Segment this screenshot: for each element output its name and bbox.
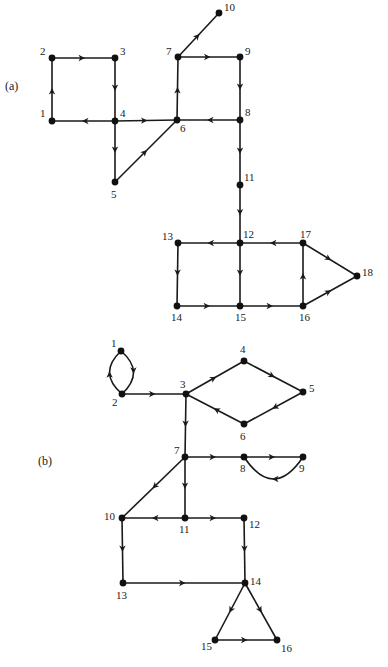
graph-a-label: (a) [5,79,18,93]
node-label: 12 [243,228,254,240]
graph-a: (a) 123456789101112131415161718 [5,1,374,323]
node-label: 6 [240,430,246,442]
node-b-15 [212,637,219,644]
node-label: 1 [111,337,117,349]
node-b-11 [182,515,189,522]
node-label: 11 [179,523,190,535]
node-a-17 [300,240,307,247]
node-a-5 [112,179,119,186]
node-label: 13 [116,589,128,601]
graph-b-edges [106,351,303,643]
node-b-4 [241,358,248,365]
node-b-1 [118,348,125,355]
node-b-2 [119,391,126,398]
node-label: 16 [281,642,293,654]
node-label: 17 [300,228,312,240]
node-b-10 [119,515,126,522]
node-label: 2 [112,396,118,408]
node-label: 5 [111,188,117,200]
node-label: 12 [249,518,260,530]
node-label: 11 [244,171,255,183]
node-a-3 [112,55,119,62]
graph-a-edges [49,13,357,309]
node-label: 15 [235,311,247,323]
node-a-13 [175,240,182,247]
node-label: 10 [104,510,116,522]
node-label: 2 [40,45,46,57]
node-a-11 [237,182,244,189]
edge-b-2-to-1 [109,351,122,394]
node-label: 6 [180,122,186,134]
node-b-6 [241,421,248,428]
node-a-15 [237,303,244,310]
node-label: 14 [250,575,262,587]
node-label: 9 [299,462,305,474]
node-a-8 [237,117,244,124]
graph-b-label: (b) [38,454,52,468]
node-a-12 [237,240,244,247]
node-label: 8 [240,462,246,474]
node-a-1 [49,118,56,125]
node-label: 16 [299,311,311,323]
node-label: 8 [245,106,251,118]
node-label: 4 [120,107,126,119]
node-label: 5 [309,382,315,394]
edge-b-1-to-2 [121,351,134,394]
node-a-4 [112,118,119,125]
node-label: 9 [245,45,251,57]
node-b-8 [241,454,248,461]
figure-canvas: (a) 123456789101112131415161718 (b) 1234… [0,0,388,667]
node-b-16 [274,637,281,644]
node-a-10 [216,10,223,17]
node-label: 13 [162,230,174,242]
node-b-3 [183,391,190,398]
node-label: 7 [166,45,172,57]
node-a-7 [175,54,182,61]
graph-b: (b) 12345678910111213141516 [38,337,315,654]
node-a-18 [354,273,361,280]
node-b-5 [300,389,307,396]
node-b-9 [300,454,307,461]
node-label: 18 [362,266,374,278]
node-a-14 [174,303,181,310]
node-b-12 [241,515,248,522]
edge-b-9-to-8 [244,457,303,479]
node-label: 1 [40,107,46,119]
node-label: 4 [240,343,246,355]
node-b-14 [242,580,249,587]
graph-b-nodes: 12345678910111213141516 [104,337,315,654]
node-label: 14 [171,311,183,323]
graph-a-nodes: 123456789101112131415161718 [40,1,374,323]
node-label: 10 [224,1,236,13]
node-a-9 [237,54,244,61]
node-b-13 [120,580,127,587]
node-a-16 [300,303,307,310]
node-b-7 [182,454,189,461]
node-label: 15 [201,640,213,652]
node-label: 7 [174,444,180,456]
node-a-2 [49,55,56,62]
node-label: 3 [180,378,186,390]
node-label: 3 [120,45,126,57]
